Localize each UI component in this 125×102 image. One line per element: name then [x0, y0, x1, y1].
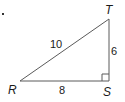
side-label-rt: 10 [50, 38, 62, 50]
side-label-st: 6 [111, 45, 117, 57]
side-rt [20, 19, 109, 81]
side-label-rs: 8 [59, 84, 65, 96]
triangle-diagram: T R S 10 6 8 [0, 0, 125, 102]
vertex-label-t: T [105, 3, 114, 17]
vertex-label-s: S [103, 85, 111, 99]
bullet-mark [2, 13, 4, 15]
right-angle-marker [102, 74, 109, 81]
vertex-label-r: R [8, 83, 17, 97]
